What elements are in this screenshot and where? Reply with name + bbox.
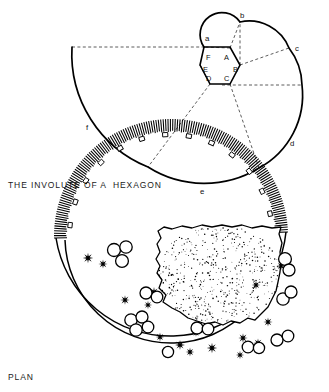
plan-stipple-dot — [203, 286, 204, 287]
plan-stipple-dot — [196, 254, 197, 255]
plan-stipple-dot — [179, 282, 180, 283]
plan-stipple-dot — [218, 233, 219, 234]
plan-stipple-dot — [220, 230, 221, 231]
plan-stipple-dot — [196, 303, 197, 304]
plan-stipple-dot — [193, 297, 194, 298]
plan-stipple-dot — [227, 230, 228, 231]
plan-stipple-dot — [165, 268, 166, 269]
plan-stipple-dot — [251, 252, 252, 253]
plan-stipple-dot — [189, 241, 190, 242]
plan-stipple-dot — [234, 309, 235, 310]
involute-arc-sequence — [72, 13, 303, 184]
plan-stipple-dot — [260, 256, 261, 257]
plan-stipple-dot — [250, 238, 251, 239]
plan-stipple-dot — [258, 299, 259, 300]
plan-stipple-dot — [198, 235, 199, 236]
plan-stipple-dot — [231, 232, 232, 233]
plan-stipple-dot — [213, 264, 214, 265]
plan-stipple-dot — [223, 294, 224, 295]
plan-stipple-dot — [220, 282, 221, 283]
plan-stipple-dot — [169, 269, 170, 270]
plan-stipple-dot — [175, 290, 176, 291]
plan-stipple-dot — [233, 233, 234, 234]
plan-stipple-dot — [168, 268, 169, 269]
plan-stipple-dot — [217, 238, 218, 239]
plan-stipple-dot — [273, 266, 274, 267]
plan-wall-hatch-tick — [156, 120, 158, 132]
plan-stipple-dot — [205, 320, 206, 321]
plan-stipple-dot — [173, 291, 174, 292]
plan-ring — [140, 287, 152, 299]
plan-stipple-dot — [252, 260, 254, 262]
plan-stipple-dot — [236, 294, 237, 295]
plan-stipple-dot — [256, 307, 257, 308]
plan-ring — [253, 342, 264, 353]
plan-stipple-dot — [241, 228, 242, 229]
plan-stipple-dot — [187, 242, 188, 243]
plan-stipple-dot — [236, 248, 237, 249]
plan-wall-hatch-tick — [264, 181, 274, 187]
plan-stipple-dot — [230, 233, 231, 234]
plan-wall-hatch-tick — [211, 128, 215, 139]
plan-stipple-dot — [277, 275, 278, 276]
plan-wall-hatch-tick — [163, 119, 164, 131]
plan-stipple-dot — [215, 233, 216, 234]
plan-stipple-dot — [252, 256, 253, 257]
plan-wall-hatch-tick — [151, 121, 153, 133]
plan-stipple-dot — [225, 230, 226, 231]
plan-stipple-dot — [233, 246, 234, 247]
plan-stipple-dot — [199, 264, 200, 265]
plan-stipple-dot — [273, 269, 274, 270]
plan-stipple-dot — [239, 262, 240, 263]
plan-stipple-dot — [208, 263, 209, 264]
plan-stipple-dot — [188, 255, 189, 256]
plan-stipple-dot — [195, 297, 196, 298]
plan-wall-hatch-tick — [267, 187, 278, 192]
plan-stipple-dot — [277, 286, 278, 287]
plan-stipple-dot — [236, 273, 237, 274]
involute-caption: THE INVOLUTE OF A HEXAGON — [8, 180, 162, 190]
plan-stipple-dot — [221, 318, 222, 319]
plan-stipple-dot — [176, 303, 177, 304]
plan-stipple-dot — [263, 285, 264, 286]
hexagon-vertex-label-A: A — [224, 53, 229, 62]
plan-stipple-dot — [239, 303, 240, 304]
plan-stipple-dot — [239, 279, 240, 280]
plan-stipple-dot — [176, 281, 177, 282]
plan-stipple-dot — [202, 272, 204, 274]
plan-stipple-dot — [188, 298, 190, 300]
hexagon-vertex-label-B: B — [233, 65, 238, 74]
plan-stipple-dot — [267, 282, 268, 283]
plan-stipple-dot — [185, 251, 186, 252]
plan-stipple-dot — [216, 241, 217, 242]
plan-stipple-dot — [262, 282, 263, 283]
plan-stipple-dot — [202, 228, 203, 229]
plan-stipple-dot — [197, 317, 198, 318]
plan-wall-hatch-tick — [54, 231, 67, 232]
plan-stipple-dot — [221, 296, 222, 297]
plan-stipple-dot — [251, 297, 252, 298]
plan-stipple-dot — [218, 319, 219, 320]
plan-wall-hatch-tick — [215, 130, 220, 141]
plan-stipple-dot — [253, 290, 254, 291]
plan-stipple-dot — [232, 309, 233, 310]
plan-stipple-dot — [222, 227, 224, 229]
plan-wall-hatch-tick — [117, 132, 122, 142]
plan-stipple-dot — [211, 257, 212, 258]
plan-stipple-dot — [186, 249, 187, 250]
plan-stipple-dot — [235, 292, 236, 293]
plan-stipple-dot — [242, 277, 243, 278]
plan-stipple-dot — [236, 282, 237, 283]
plan-stipple-dot — [262, 270, 263, 271]
plan-stipple-dot — [272, 293, 273, 294]
plan-stipple-dot — [193, 317, 194, 318]
hexagon-vertex-label-D: D — [206, 74, 211, 83]
plan-stipple-dot — [229, 290, 230, 291]
plan-stipple-dot — [260, 271, 261, 272]
plan-stipple-dot — [260, 246, 261, 247]
plan-wall-hatch-tick — [123, 129, 128, 140]
plan-stipple-dot — [190, 280, 191, 281]
plan-stipple-dot — [213, 259, 214, 260]
plan-stipple-dot — [264, 260, 266, 262]
plan-stipple-dot — [268, 291, 269, 292]
